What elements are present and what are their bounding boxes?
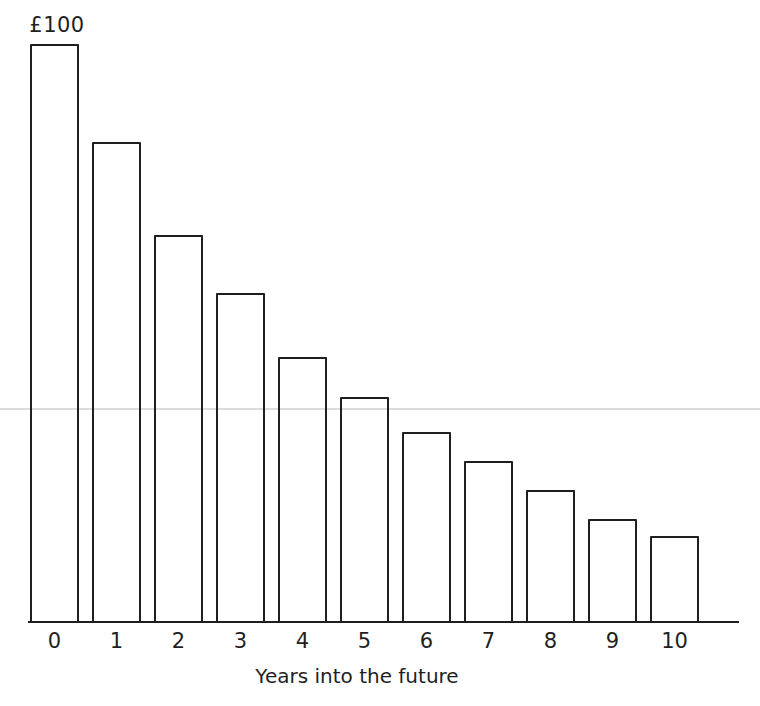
x-tick-label-0: 0: [48, 629, 61, 653]
x-tick-label-7: 7: [482, 629, 495, 653]
x-tick-label-5: 5: [358, 629, 371, 653]
x-tick-label-4: 4: [296, 629, 309, 653]
x-tick-label-10: 10: [661, 629, 688, 653]
x-tick-label-8: 8: [544, 629, 557, 653]
first-bar-value-label: £100: [29, 13, 84, 37]
x-tick-label-2: 2: [172, 629, 185, 653]
x-tick-label-9: 9: [606, 629, 619, 653]
x-tick-label-6: 6: [420, 629, 433, 653]
x-tick-label-1: 1: [110, 629, 123, 653]
x-axis-title: Years into the future: [255, 663, 458, 689]
present-value-bar-chart: £100 012345678910 Years into the future: [0, 0, 760, 706]
x-tick-labels: 012345678910: [0, 0, 760, 706]
x-tick-label-3: 3: [234, 629, 247, 653]
